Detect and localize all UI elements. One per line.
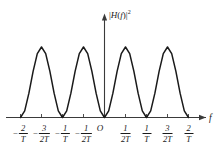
x-tick-label: 32T (162, 124, 173, 143)
tick-fraction-denominator: T (20, 134, 27, 143)
tick-fraction: 32T (39, 124, 50, 143)
tick-fraction-numerator: 1 (143, 124, 149, 133)
tick-fraction: 1T (142, 124, 151, 143)
tick-fraction-numerator: 1 (122, 124, 128, 133)
tick-fraction-numerator: 2 (20, 124, 26, 133)
tick-fraction: 2T (19, 124, 28, 143)
tick-fraction-numerator: 1 (83, 124, 89, 133)
tick-fraction: 32T (162, 124, 173, 143)
tick-fraction-denominator: 2T (39, 134, 50, 143)
figure-canvas: |H(f)|2 f O −2T−32T−1T−12T12T1T32T2T (0, 0, 222, 153)
tick-fraction: 2T (184, 124, 193, 143)
x-tick-label: 1T (142, 124, 151, 143)
tick-fraction-denominator: T (143, 134, 150, 143)
x-axis-label: f (209, 113, 212, 123)
y-axis-label-exponent: 2 (128, 9, 131, 15)
tick-fraction-denominator: T (185, 134, 192, 143)
x-tick-label: −2T (13, 124, 27, 143)
origin-label: O (97, 123, 104, 133)
tick-fraction: 12T (81, 124, 92, 143)
tick-fraction-numerator: 3 (41, 124, 47, 133)
x-axis-arrow (199, 115, 206, 120)
tick-fraction-denominator: 2T (162, 134, 173, 143)
tick-fraction: 1T (61, 124, 70, 143)
tick-fraction: 12T (120, 124, 131, 143)
x-tick-label: 2T (184, 124, 193, 143)
tick-fraction-numerator: 2 (185, 124, 191, 133)
tick-fraction-denominator: 2T (120, 134, 131, 143)
tick-fraction-numerator: 3 (164, 124, 170, 133)
x-tick-label: −1T (55, 124, 69, 143)
x-tick-label: −32T (33, 124, 49, 143)
x-tick-label: −12T (75, 124, 91, 143)
tick-fraction-denominator: T (62, 134, 69, 143)
tick-fraction-denominator: 2T (81, 134, 92, 143)
y-axis-arrow (102, 14, 107, 21)
tick-fraction-numerator: 1 (62, 124, 68, 133)
y-axis-label: |H(f)|2 (109, 9, 131, 20)
x-tick-label: 12T (120, 124, 131, 143)
